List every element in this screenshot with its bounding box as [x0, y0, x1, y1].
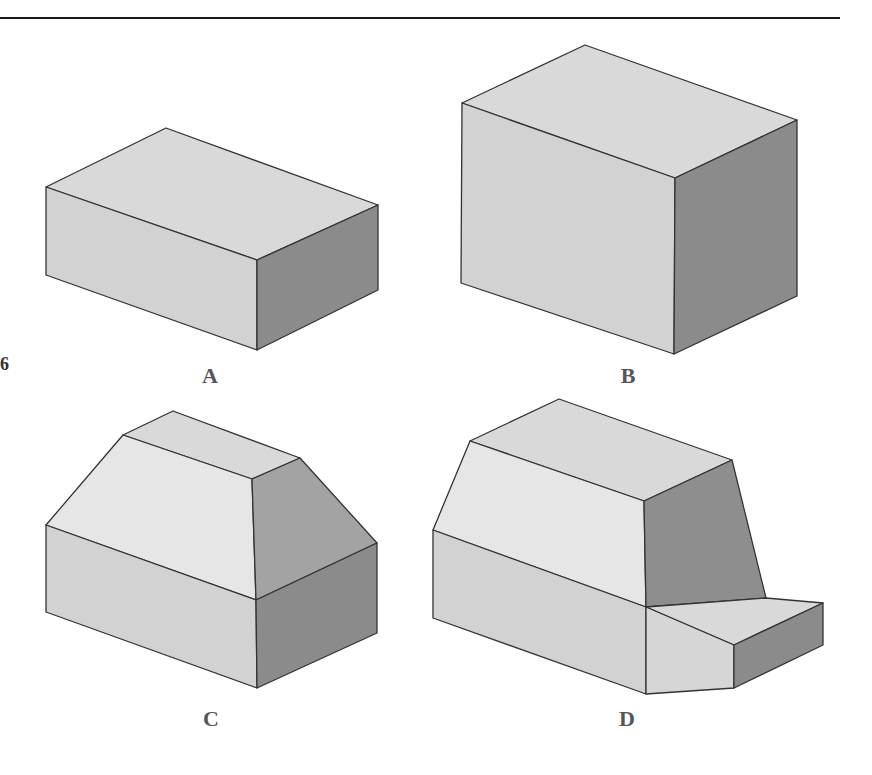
shape-a — [46, 128, 378, 350]
shape-d — [433, 399, 823, 694]
shape-c — [46, 411, 377, 688]
shape-c-label: C — [203, 706, 219, 732]
isometric-figure — [0, 0, 872, 775]
shape-b — [461, 45, 797, 354]
shape-d-label: D — [619, 706, 635, 732]
shape-b-label: B — [621, 363, 636, 389]
shape-a-label: A — [202, 363, 218, 389]
